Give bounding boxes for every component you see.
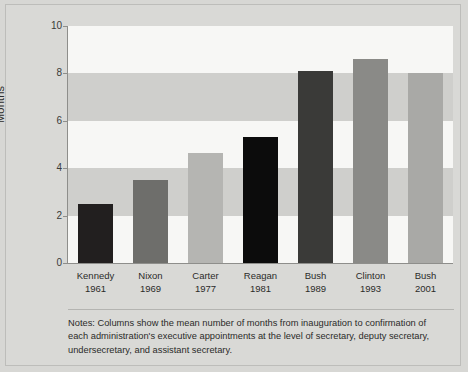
x-label-kennedy-1961: Kennedy1961 (68, 269, 123, 295)
x-label-carter-1977: Carter1977 (178, 269, 233, 295)
y-tick-mark-0 (63, 263, 67, 264)
x-label-name: Nixon (123, 269, 178, 282)
x-label-name: Bush (398, 269, 453, 282)
x-label-reagan-1981: Reagan1981 (233, 269, 288, 295)
y-tick-label-2: 2 (6, 211, 62, 221)
y-tick-mark-8 (63, 73, 67, 74)
y-axis-line (67, 26, 68, 264)
x-label-name: Carter (178, 269, 233, 282)
y-tick-mark-6 (63, 121, 67, 122)
y-tick-mark-2 (63, 216, 67, 217)
x-label-year: 1961 (68, 282, 123, 295)
x-label-year: 2001 (398, 282, 453, 295)
x-label-name: Bush (288, 269, 343, 282)
figure-container: 1086420 Months Kennedy1961Nixon1969Carte… (0, 0, 468, 372)
x-label-name: Kennedy (68, 269, 123, 282)
bar-nixon-1969[interactable] (133, 180, 168, 263)
x-label-year: 1981 (233, 282, 288, 295)
y-tick-mark-4 (63, 168, 67, 169)
x-label-name: Clinton (343, 269, 398, 282)
y-axis-title: Months (0, 86, 6, 123)
x-label-year: 1989 (288, 282, 343, 295)
x-label-clinton-1993: Clinton1993 (343, 269, 398, 295)
y-tick-label-4: 4 (6, 163, 62, 173)
bar-carter-1977[interactable] (188, 153, 223, 263)
plot-area (68, 26, 453, 263)
bar-kennedy-1961[interactable] (78, 204, 113, 263)
page-frame: 1086420 Months Kennedy1961Nixon1969Carte… (5, 4, 461, 366)
x-axis-labels: Kennedy1961Nixon1969Carter1977Reagan1981… (68, 269, 453, 301)
bar-bush-1989[interactable] (298, 71, 333, 263)
bars-layer (68, 26, 453, 263)
y-tick-label-6: 6 (6, 116, 62, 126)
notes-block: Notes: Columns show the mean number of m… (68, 317, 458, 357)
y-tick-label-10: 10 (6, 21, 62, 31)
notes-line-2: each administration's executive appointm… (68, 330, 458, 343)
notes-line-1: Notes: Columns show the mean number of m… (68, 317, 458, 330)
y-tick-mark-10 (63, 26, 67, 27)
x-label-year: 1993 (343, 282, 398, 295)
bar-bush-2001[interactable] (408, 73, 443, 263)
x-axis-line (67, 263, 453, 264)
notes-line-3: undersecretary, and assistant secretary. (68, 344, 458, 357)
x-label-year: 1969 (123, 282, 178, 295)
y-tick-label-0: 0 (6, 258, 62, 268)
bar-reagan-1981[interactable] (243, 137, 278, 263)
x-label-nixon-1969: Nixon1969 (123, 269, 178, 295)
bar-clinton-1993[interactable] (353, 59, 388, 263)
notes-divider (68, 309, 454, 310)
y-tick-label-8: 8 (6, 68, 62, 78)
x-label-bush-1989: Bush1989 (288, 269, 343, 295)
x-label-bush-2001: Bush2001 (398, 269, 453, 295)
x-label-year: 1977 (178, 282, 233, 295)
x-label-name: Reagan (233, 269, 288, 282)
